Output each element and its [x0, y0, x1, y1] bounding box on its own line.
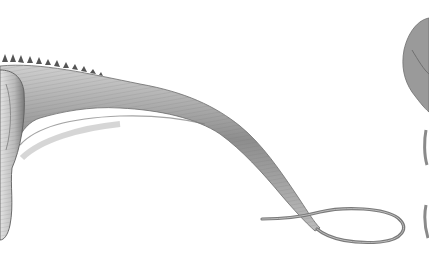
tail-loop: [262, 209, 404, 243]
second-figure: [403, 18, 429, 238]
illustration: Pencil illustration of a sauropod dinosa…: [0, 0, 429, 261]
tail: [0, 65, 320, 231]
hindquarters: [0, 70, 24, 240]
